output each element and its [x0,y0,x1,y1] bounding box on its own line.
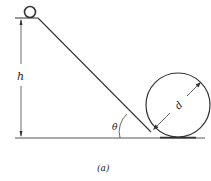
incline-line [38,18,151,132]
angle-arc [119,114,127,138]
loop-track-diagram: h θ d (a) [0,0,211,181]
ball [25,7,36,18]
diameter-label: d [172,99,184,111]
figure-caption: (a) [97,163,110,173]
arrow-down-icon [20,131,23,137]
angle-label: θ [112,122,118,132]
arrow-up-icon [20,19,23,25]
height-label: h [17,70,24,83]
